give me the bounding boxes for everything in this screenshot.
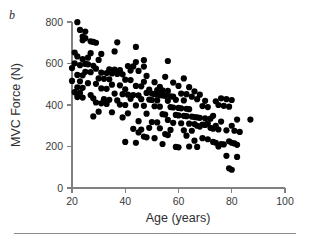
data-point (191, 138, 197, 144)
data-point (80, 37, 86, 43)
data-point (93, 66, 99, 72)
x-axis-ticks: 20406080100 (66, 188, 294, 207)
data-point (215, 143, 221, 149)
y-axis-title: MVC Force (N) (9, 63, 23, 147)
data-point (154, 97, 160, 103)
data-point (114, 71, 120, 77)
data-point (109, 109, 115, 115)
data-point (127, 77, 133, 83)
data-point (135, 68, 141, 74)
data-point (183, 113, 189, 119)
data-point (175, 112, 181, 118)
x-tick-label: 20 (66, 195, 78, 207)
data-point (234, 154, 240, 160)
data-point (229, 97, 235, 103)
x-tick-label: 100 (276, 195, 294, 207)
x-tick-label: 60 (173, 195, 185, 207)
data-point (186, 84, 192, 90)
data-point (104, 70, 110, 76)
data-point (133, 44, 139, 50)
data-point (181, 75, 187, 81)
y-tick-label: 200 (45, 140, 63, 152)
data-point (191, 88, 197, 94)
data-point (183, 133, 189, 139)
x-axis-title: Age (years) (146, 211, 211, 225)
data-point (141, 64, 147, 70)
data-point (101, 76, 107, 82)
data-point (183, 91, 189, 97)
data-point (165, 58, 171, 64)
y-tick-label: 800 (45, 16, 63, 28)
data-point (229, 167, 235, 173)
data-point (109, 82, 115, 88)
data-point (215, 126, 221, 132)
data-point (138, 96, 144, 102)
data-point (135, 129, 141, 135)
data-point (194, 144, 200, 150)
data-point (69, 65, 75, 71)
x-tick-label: 40 (119, 195, 131, 207)
data-point (247, 116, 253, 122)
data-point (122, 139, 128, 145)
data-point (98, 70, 104, 76)
data-point (143, 134, 149, 140)
data-point (112, 90, 118, 96)
data-point (221, 141, 227, 147)
data-point (151, 79, 157, 85)
data-point (170, 104, 176, 110)
data-point (205, 136, 211, 142)
data-point (223, 153, 229, 159)
data-point (88, 69, 94, 75)
data-point (109, 70, 115, 76)
data-point (178, 120, 184, 126)
data-point (162, 111, 168, 117)
data-point (186, 121, 192, 127)
data-point (159, 141, 165, 147)
panel-label: b (9, 8, 15, 23)
data-point (96, 57, 102, 63)
data-point (141, 57, 147, 63)
data-point (119, 71, 125, 77)
data-point (223, 127, 229, 133)
data-point (218, 95, 224, 101)
data-point (149, 119, 155, 125)
data-point (234, 116, 240, 122)
data-point (165, 117, 171, 123)
y-tick-label: 0 (57, 182, 63, 194)
data-point (178, 90, 184, 96)
data-point (90, 113, 96, 119)
data-point (157, 125, 163, 131)
data-point (119, 114, 125, 120)
data-point (151, 103, 157, 109)
data-point (85, 61, 91, 67)
data-point (175, 144, 181, 150)
data-point (122, 77, 128, 83)
data-point (117, 82, 123, 88)
data-point (199, 103, 205, 109)
data-point (210, 113, 216, 119)
data-point (119, 91, 125, 97)
data-point (231, 128, 237, 134)
data-point (189, 128, 195, 134)
data-point (215, 102, 221, 108)
data-point (74, 53, 80, 59)
data-point (181, 97, 187, 103)
data-point (154, 119, 160, 125)
data-point (104, 86, 110, 92)
data-point (96, 75, 102, 81)
data-point (96, 109, 102, 115)
data-point (133, 83, 139, 89)
x-tick-label: 80 (226, 195, 238, 207)
data-point (197, 123, 203, 129)
y-tick-label: 600 (45, 57, 63, 69)
data-point (98, 100, 104, 106)
y-tick-label: 400 (45, 99, 63, 111)
data-point (74, 72, 80, 78)
data-point (114, 39, 120, 45)
data-point (69, 78, 75, 84)
data-point (98, 51, 104, 57)
data-point (165, 98, 171, 104)
data-point (141, 103, 147, 109)
data-point (223, 96, 229, 102)
data-point (74, 94, 80, 100)
